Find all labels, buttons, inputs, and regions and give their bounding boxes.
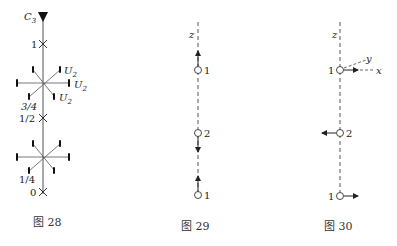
figure-29: z 1 2 1 图 29 xyxy=(181,22,210,233)
level-0-label: 0 xyxy=(30,187,36,198)
figure-canvas: C3 1 U2 U2 U2 3/4 1/2 xyxy=(0,0,397,246)
level-3-4-label: 3/4 xyxy=(21,101,37,112)
u2-label-2: U2 xyxy=(74,79,87,93)
z-axis-label: z xyxy=(331,29,338,40)
figure-28: C3 1 U2 U2 U2 3/4 1/2 xyxy=(16,11,87,229)
atom-label-3: 1 xyxy=(204,190,210,201)
atom-label-2: 2 xyxy=(346,128,352,139)
atom-circle-2 xyxy=(195,130,202,137)
caption-30: 图 30 xyxy=(324,220,353,233)
caption-28: 图 28 xyxy=(33,216,62,229)
u2-label-1: U2 xyxy=(64,65,77,79)
level-1-4-label: 1/4 xyxy=(19,174,35,185)
level-half-label: 1/2 xyxy=(19,113,35,124)
z-axis-label: z xyxy=(188,29,195,40)
atom-circle-3 xyxy=(195,192,202,199)
atom-label-3: 1 xyxy=(328,191,334,202)
caption-29: 图 29 xyxy=(181,220,210,233)
figure-30: z 1 x y 2 1 图 30 xyxy=(322,22,382,233)
y-axis-dashed xyxy=(344,60,366,68)
x-axis-label: x xyxy=(376,65,382,76)
u2-label-3: U2 xyxy=(59,92,72,106)
atom-circle-1 xyxy=(337,67,344,74)
atom-label-2: 2 xyxy=(204,128,210,139)
atom-circle-1 xyxy=(195,67,202,74)
c3-triangle-icon xyxy=(38,12,48,22)
c3-label: C3 xyxy=(24,11,37,25)
atom-circle-3 xyxy=(337,193,344,200)
atom-label-1: 1 xyxy=(328,65,334,76)
y-axis-label: y xyxy=(365,53,372,64)
level-1-label: 1 xyxy=(31,39,37,50)
atom-label-1: 1 xyxy=(204,65,210,76)
atom-circle-2 xyxy=(337,130,344,137)
